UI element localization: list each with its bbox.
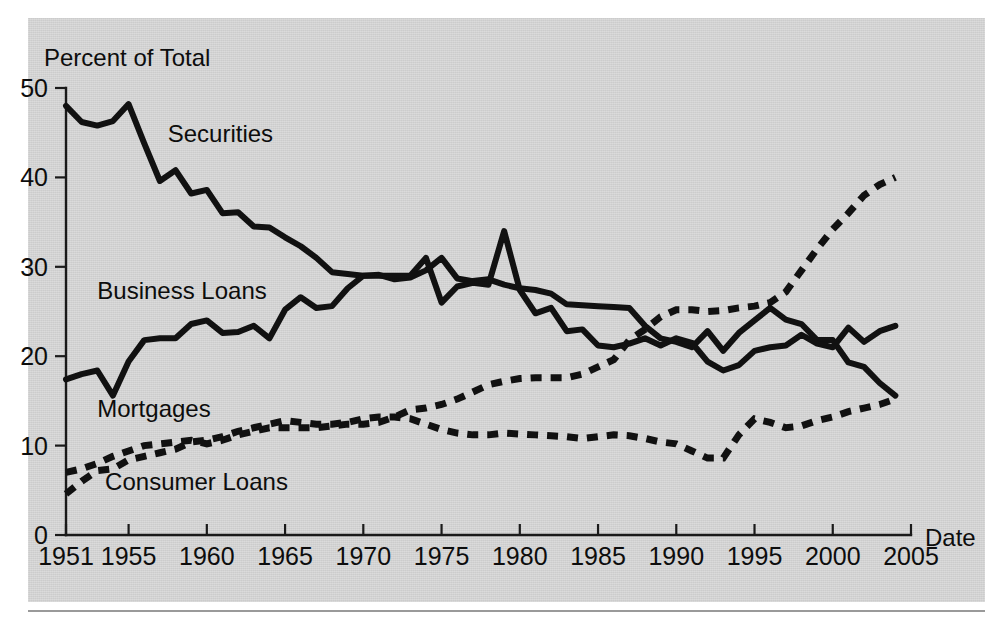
x-tick-label: 1955 [101, 542, 157, 570]
y-tick-label: 50 [20, 74, 48, 102]
x-tick-label: 1960 [179, 542, 235, 570]
series-label-securities: Securities [168, 120, 273, 147]
line-chart: Percent of Total 01020304050 19511955196… [0, 0, 1008, 623]
y-axis-ticks: 01020304050 [20, 74, 66, 549]
series-label-consumer-loans: Consumer Loans [105, 468, 288, 495]
y-axis-title: Percent of Total [44, 44, 210, 71]
x-axis-title: Date [925, 524, 976, 551]
series-annotations: SecuritiesBusiness LoansMortgagesConsume… [97, 120, 288, 496]
series-line-business-loans [66, 231, 895, 396]
series-line-securities [66, 104, 895, 395]
series-label-mortgages: Mortgages [97, 395, 210, 422]
x-tick-label: 1990 [648, 542, 704, 570]
x-tick-label: 1951 [38, 542, 94, 570]
figure-root: Percent of Total 01020304050 19511955196… [0, 0, 1008, 623]
x-tick-label: 1985 [570, 542, 626, 570]
x-tick-label: 1975 [414, 542, 470, 570]
y-tick-label: 10 [20, 432, 48, 460]
x-tick-label: 1980 [492, 542, 548, 570]
series-label-business-loans: Business Loans [97, 277, 266, 304]
x-tick-label: 1995 [727, 542, 783, 570]
y-tick-label: 20 [20, 342, 48, 370]
x-tick-label: 2000 [805, 542, 861, 570]
y-tick-label: 30 [20, 253, 48, 281]
x-tick-label: 1970 [336, 542, 392, 570]
x-axis-ticks: 1951195519601965197019751980198519901995… [38, 524, 939, 570]
x-tick-label: 1965 [257, 542, 313, 570]
y-tick-label: 40 [20, 163, 48, 191]
